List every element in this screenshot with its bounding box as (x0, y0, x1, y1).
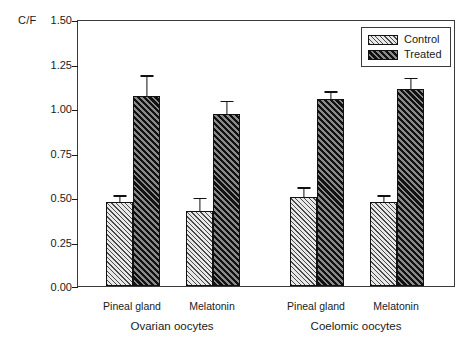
y-tick-label: 0.50 (32, 192, 72, 204)
bar-control-ovarian-pineal (106, 202, 133, 287)
group-label-coelomic: Coelomic oocytes (311, 320, 402, 332)
bar-treated-coelomic-pineal (317, 99, 344, 286)
bar-control-coelomic-melatonin (370, 202, 397, 287)
legend-label-treated: Treated (404, 49, 442, 60)
errorbar-control-ovarian-melatonin (186, 198, 213, 211)
category-label-ovarian-pineal: Pineal gland (103, 300, 161, 312)
errorbar-treated-coelomic-melatonin (397, 78, 424, 89)
y-tick-mark (72, 287, 78, 288)
bar-treated-ovarian-melatonin (213, 114, 240, 286)
errorbar-treated-ovarian-melatonin (213, 101, 240, 114)
legend-swatch-control-icon (368, 35, 398, 45)
category-label-coelomic-melatonin: Melatonin (373, 300, 419, 312)
bar-control-coelomic-pineal (290, 197, 317, 286)
legend-swatch-treated-icon (368, 50, 398, 60)
group-label-ovarian: Ovarian oocytes (130, 320, 213, 332)
category-label-ovarian-melatonin: Melatonin (189, 300, 235, 312)
y-tick-label: 1.25 (32, 59, 72, 71)
bar-treated-coelomic-melatonin (397, 89, 424, 287)
y-tick-label: 0.00 (32, 281, 72, 293)
legend: Control Treated (361, 27, 451, 67)
bar-treated-ovarian-pineal (133, 96, 160, 286)
bar-control-ovarian-melatonin (186, 211, 213, 286)
errorbar-control-coelomic-melatonin (370, 195, 397, 201)
errorbar-treated-ovarian-pineal (133, 75, 160, 96)
legend-item-control: Control (368, 33, 442, 46)
y-tick-label: 1.00 (32, 103, 72, 115)
legend-item-treated: Treated (368, 48, 442, 61)
y-tick-label: 0.25 (32, 237, 72, 249)
y-tick-label: 1.50 (32, 14, 72, 26)
category-label-coelomic-pineal: Pineal gland (287, 300, 345, 312)
y-tick-label: 0.75 (32, 148, 72, 160)
y-axis-ticks: 1.50 1.25 1.00 0.75 0.50 0.25 0.00 (30, 0, 72, 344)
bar-chart: C/F 1.50 1.25 1.00 0.75 0.50 0.25 0.00 (0, 0, 476, 344)
errorbar-control-ovarian-pineal (106, 195, 133, 201)
legend-label-control: Control (404, 34, 439, 45)
errorbar-treated-coelomic-pineal (317, 91, 344, 99)
errorbar-control-coelomic-pineal (290, 187, 317, 197)
